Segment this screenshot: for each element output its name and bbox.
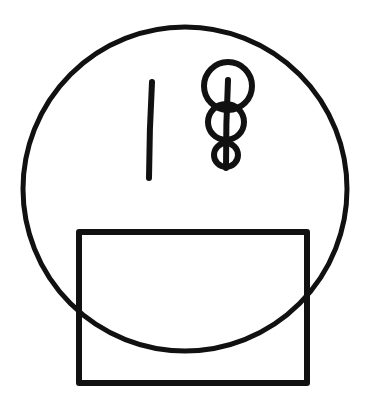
vertical-tick-stroke bbox=[149, 82, 152, 178]
large-circle bbox=[23, 27, 347, 351]
stack-axis-line bbox=[226, 80, 228, 168]
drawing-canvas: Hand-drawn line figure: a large circle o… bbox=[0, 0, 374, 407]
rectangle bbox=[79, 232, 307, 383]
line-figure: Hand-drawn line figure: a large circle o… bbox=[0, 0, 374, 407]
